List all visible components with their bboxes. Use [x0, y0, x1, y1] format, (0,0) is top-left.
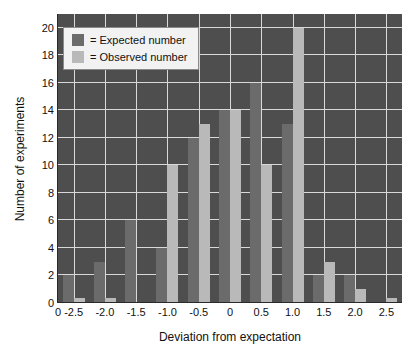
legend-swatch-observed-icon — [72, 51, 84, 63]
y-tick-labels: 02468101214161820 — [24, 0, 54, 352]
bar-expected — [63, 275, 74, 303]
bar-expected — [188, 138, 199, 303]
legend-label-expected: = Expected number — [90, 34, 186, 46]
bar-observed — [199, 124, 210, 303]
x-axis-title: Deviation from expectation — [58, 330, 402, 344]
bar-expected — [344, 275, 355, 303]
y-tick-label: 10 — [26, 160, 54, 171]
y-tick-label: 18 — [26, 50, 54, 61]
y-tick-label: 2 — [26, 270, 54, 281]
y-tick-label: 14 — [26, 105, 54, 116]
y-tick-label: 16 — [26, 78, 54, 89]
x-tick-label: 2.5 — [366, 306, 406, 318]
bar-observed — [355, 289, 366, 303]
legend-item-observed: = Observed number — [72, 51, 188, 63]
bar-expected — [219, 110, 230, 303]
chart-figure: 02468101214161820 0-2.5-2.0-1.5-1.0-0.50… — [0, 0, 417, 352]
y-axis-title: Number of experiments — [13, 59, 27, 259]
y-tick-label: 12 — [26, 133, 54, 144]
bar-observed — [293, 28, 304, 303]
legend-swatch-expected-icon — [72, 34, 84, 46]
bar-expected — [282, 124, 293, 303]
bar-observed — [230, 110, 241, 303]
y-tick-label: 8 — [26, 188, 54, 199]
y-axis-line — [57, 14, 58, 303]
bar-expected — [156, 248, 167, 303]
bar-observed — [167, 165, 178, 303]
y-tick-label: 4 — [26, 243, 54, 254]
legend: = Expected number = Observed number — [63, 27, 199, 70]
legend-item-expected: = Expected number — [72, 34, 188, 46]
bar-expected — [125, 220, 136, 303]
x-axis-line — [58, 302, 402, 303]
legend-label-observed: = Observed number — [90, 51, 188, 63]
y-tick-label: 6 — [26, 215, 54, 226]
y-tick-label: 20 — [26, 23, 54, 34]
bar-expected — [250, 83, 261, 303]
bar-observed — [261, 165, 272, 303]
bar-expected — [313, 275, 324, 303]
bar-observed — [324, 262, 335, 303]
bar-expected — [94, 262, 105, 303]
